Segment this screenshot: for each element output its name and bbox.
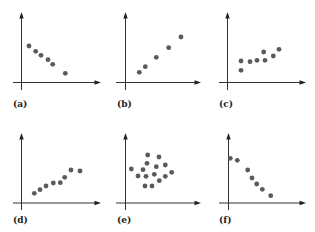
data-point xyxy=(144,174,149,179)
data-point xyxy=(51,181,56,186)
data-point xyxy=(163,174,168,179)
data-point xyxy=(277,47,282,52)
data-point xyxy=(179,35,184,40)
x-axis-arrow-icon xyxy=(300,80,307,84)
panel-label: (a) xyxy=(13,99,27,109)
panel-e: (e) xyxy=(116,133,201,225)
panel-label: (c) xyxy=(219,99,233,109)
panel-label: (f) xyxy=(219,215,231,225)
data-point xyxy=(69,168,74,173)
x-axis-arrow-icon xyxy=(195,80,202,84)
data-point xyxy=(38,187,43,192)
y-axis-arrow-icon xyxy=(19,12,23,19)
y-axis-arrow-icon xyxy=(225,12,229,19)
data-point xyxy=(255,58,260,63)
data-point xyxy=(228,156,233,161)
data-point xyxy=(268,193,273,198)
data-point xyxy=(33,49,38,54)
y-axis-arrow-icon xyxy=(123,12,127,19)
data-point xyxy=(163,163,168,168)
y-axis-arrow-icon xyxy=(19,133,23,140)
panel-label: (e) xyxy=(117,215,131,225)
data-point xyxy=(50,62,55,67)
data-point xyxy=(145,153,150,158)
data-point xyxy=(245,168,250,173)
x-axis-arrow-icon xyxy=(95,201,102,205)
data-point xyxy=(166,45,171,50)
data-point xyxy=(145,161,150,166)
data-point xyxy=(58,180,63,185)
data-point xyxy=(143,64,148,69)
x-axis-arrow-icon xyxy=(95,80,102,84)
data-point xyxy=(63,71,68,76)
x-axis-arrow-icon xyxy=(195,201,202,205)
data-point xyxy=(157,178,162,183)
data-point xyxy=(157,155,162,160)
data-point xyxy=(62,175,67,180)
panel-f: (f) xyxy=(219,133,306,225)
y-axis-arrow-icon xyxy=(123,133,127,140)
panel-b: (b) xyxy=(116,12,201,109)
data-point xyxy=(154,164,159,169)
data-point xyxy=(78,169,83,174)
data-point xyxy=(239,59,244,64)
x-axis-arrow-icon xyxy=(300,201,307,205)
data-point xyxy=(261,50,266,55)
data-point xyxy=(44,184,49,189)
data-point xyxy=(152,172,157,177)
data-point xyxy=(27,44,32,49)
data-point xyxy=(46,57,51,62)
panel-c: (c) xyxy=(219,12,306,109)
data-point xyxy=(235,158,240,163)
panel-a: (a) xyxy=(13,12,101,109)
data-point xyxy=(254,182,259,187)
data-point xyxy=(250,176,255,181)
panel-d: (d) xyxy=(13,133,101,225)
panel-label: (b) xyxy=(117,99,132,109)
scatter-plot-grid: (a) (b) (c) (d) (e) (f) xyxy=(0,0,315,232)
data-point xyxy=(263,58,268,63)
data-point xyxy=(260,187,265,192)
data-point xyxy=(141,167,146,172)
data-point xyxy=(169,170,174,175)
panel-label: (d) xyxy=(13,215,28,225)
data-point xyxy=(239,68,244,73)
data-point xyxy=(154,55,159,60)
data-point xyxy=(143,184,148,189)
y-axis-arrow-icon xyxy=(226,133,230,140)
data-point xyxy=(136,174,141,179)
data-point xyxy=(137,70,142,75)
data-point xyxy=(150,184,155,189)
data-point xyxy=(271,54,276,59)
data-point xyxy=(39,53,44,58)
data-point xyxy=(129,167,134,172)
data-point xyxy=(248,59,253,64)
data-point xyxy=(32,191,37,196)
